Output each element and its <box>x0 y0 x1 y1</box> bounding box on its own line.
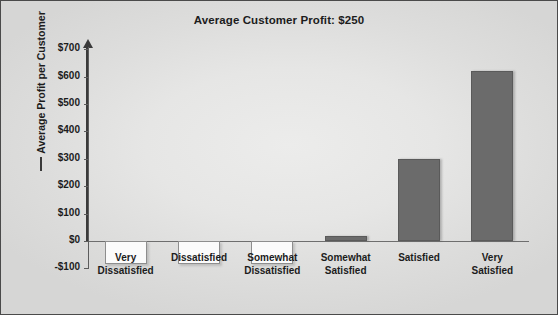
x-label-line-2: Dissatisfied <box>236 264 309 277</box>
x-label-line-1: Somewhat <box>247 252 297 263</box>
y-axis-tick-label: $0 <box>69 234 80 245</box>
x-label-line-2: Dissatisfied <box>89 264 162 277</box>
x-axis-category-label: SomewhatDissatisfied <box>236 251 309 277</box>
bar-slot <box>162 1 235 315</box>
x-label-line-2: Satisfied <box>456 264 529 277</box>
x-axis-category-label: SomewhatSatisfied <box>309 251 382 277</box>
bar-slot <box>382 1 455 315</box>
y-axis-title-rule <box>40 157 42 171</box>
y-axis-tick-label: $400 <box>58 124 80 135</box>
x-label-line-1: Very <box>115 252 136 263</box>
x-label-line-1: Dissatisfied <box>171 252 227 263</box>
x-axis-category-label: VerySatisfied <box>456 251 529 277</box>
y-axis-tick-label: $100 <box>58 207 80 218</box>
y-axis-tick-label: $200 <box>58 179 80 190</box>
bar[interactable] <box>325 236 367 241</box>
y-axis-title: Average Profit per Customer <box>35 6 47 176</box>
y-axis-tick-label: $700 <box>58 42 80 53</box>
x-label-line-2: Satisfied <box>309 264 382 277</box>
x-label-line-1: Very <box>482 252 503 263</box>
y-axis-tick-label: $300 <box>58 152 80 163</box>
chart-figure: Average Customer Profit: $250 Average Pr… <box>0 0 558 315</box>
x-axis-category-label: Satisfied <box>382 251 455 264</box>
x-label-line-1: Somewhat <box>321 252 371 263</box>
bar[interactable] <box>471 71 513 241</box>
x-axis-category-label: VeryDissatisfied <box>89 251 162 277</box>
x-axis-category-label: Dissatisfied <box>162 251 235 264</box>
x-label-line-1: Satisfied <box>398 252 440 263</box>
bar[interactable] <box>398 159 440 241</box>
y-axis-tick-label: $500 <box>58 97 80 108</box>
y-axis-title-text: Average Profit per Customer <box>35 11 47 154</box>
y-axis-tick-label: $600 <box>58 70 80 81</box>
y-axis-tick-label: -$100 <box>54 261 80 272</box>
